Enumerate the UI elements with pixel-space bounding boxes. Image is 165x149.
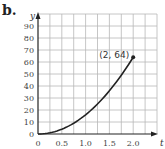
y-axis-arrow-icon	[36, 12, 41, 19]
x-tick-label: 0	[35, 139, 40, 148]
y-tick-label: 20	[24, 106, 34, 115]
y-tick-label: 0	[29, 130, 34, 139]
x-tick-label: 1.5	[103, 139, 116, 148]
x-tick-label: 1.0	[79, 139, 92, 148]
y-tick-label: 80	[24, 34, 34, 43]
y-tick-label: 50	[24, 70, 34, 79]
chart-grid	[38, 14, 157, 134]
x-tick-label: 2.0	[127, 139, 140, 148]
data-point-marker	[131, 55, 135, 59]
y-tick-label: 90	[24, 22, 34, 31]
x-axis-label: t	[160, 138, 164, 148]
y-tick-label: 60	[24, 58, 34, 67]
y-tick-label: 70	[24, 46, 34, 55]
x-tick-label: 0.5	[55, 139, 68, 148]
chart: 00.51.01.52.00102030405060708090 (2, 64)…	[0, 0, 165, 149]
y-axis-label: y	[29, 11, 36, 21]
y-tick-label: 10	[24, 118, 34, 127]
point-annotation: (2, 64)	[99, 50, 129, 60]
y-tick-label: 30	[24, 94, 34, 103]
tick-labels: 00.51.01.52.00102030405060708090	[24, 22, 140, 148]
y-tick-label: 40	[24, 82, 34, 91]
